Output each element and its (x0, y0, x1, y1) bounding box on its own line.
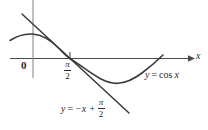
cosine-label-argument: x (174, 69, 178, 80)
fraction-denominator: 2 (64, 71, 71, 81)
cosine-curve-label: y=cosx (145, 70, 179, 80)
tangent-fraction-denominator: 2 (98, 109, 105, 119)
cosine-label-equals: = (149, 69, 159, 80)
x-axis-arrowhead (188, 55, 195, 61)
cosine-label-function: cos (159, 69, 174, 80)
fraction-pi-over-2: π 2 (64, 60, 71, 81)
cosine-tangent-figure: 0 x π 2 y=cosx y=−x + π 2 (0, 0, 208, 130)
origin-label: 0 (21, 60, 27, 71)
tangent-label-equals: = (65, 104, 75, 114)
tangent-fraction-pi-over-2: π 2 (98, 98, 105, 119)
x-axis-label: x (196, 51, 200, 61)
tangent-line-label: y=−x + π 2 (61, 98, 105, 119)
tangent-label-term: −x + (75, 104, 95, 114)
tick-label-pi-over-2: π 2 (64, 60, 71, 81)
tangent-fraction-numerator: π (98, 98, 105, 108)
fraction-numerator: π (64, 60, 71, 70)
